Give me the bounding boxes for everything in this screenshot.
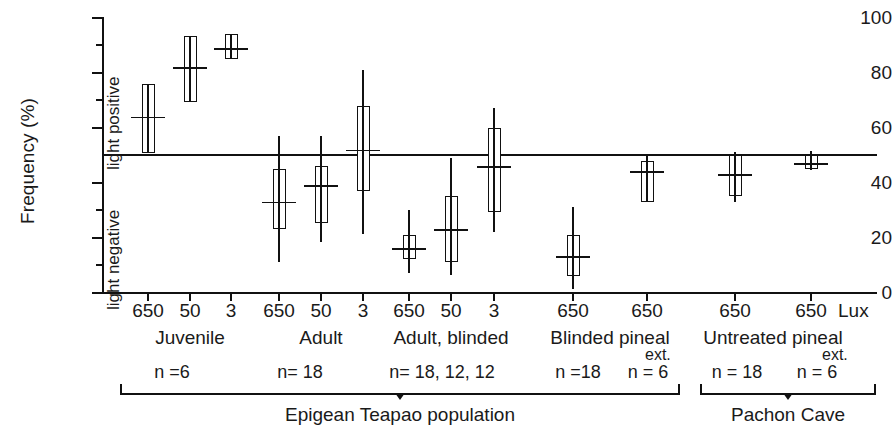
x-label-juvenile-50: 50 <box>179 300 200 322</box>
y-tick-80 <box>92 72 102 74</box>
y-tick-minor-70 <box>96 99 102 101</box>
median-line <box>794 163 828 165</box>
median-line <box>556 256 590 258</box>
y-tick-minor-30 <box>96 209 102 211</box>
note-light-positive: light positive <box>104 76 124 170</box>
n-label-blinded-pineal: n =18 <box>555 362 601 383</box>
y-tick-minor-10 <box>96 264 102 266</box>
box <box>488 128 501 213</box>
group-label-juvenile: Juvenile <box>155 327 225 349</box>
n-label-juvenile: n =6 <box>154 362 190 383</box>
box-plot-blinded-pineal-ext-650[interactable] <box>634 0 660 292</box>
x-axis-line <box>102 292 877 294</box>
median-line <box>477 166 511 168</box>
median-line <box>173 67 207 69</box>
box-plot-untreated-pineal-650[interactable] <box>722 0 748 292</box>
box-plot-blinded-pineal-650[interactable] <box>560 0 586 292</box>
box <box>315 166 328 224</box>
box-plot-adult-blinded-3[interactable] <box>481 0 507 292</box>
n-label-blinded-pineal-ext: n = 6 <box>628 362 669 383</box>
box-plot-adult-blinded-650[interactable] <box>396 0 422 292</box>
box <box>273 169 286 229</box>
x-label-blinded-pineal-650: 650 <box>557 300 589 322</box>
bracket-epigean <box>120 384 680 395</box>
median-line <box>262 202 296 204</box>
n-label-adult: n= 18 <box>277 362 323 383</box>
box <box>142 84 155 153</box>
median-line <box>346 150 380 152</box>
x-unit-lux: Lux <box>838 300 869 322</box>
median-line <box>131 117 165 119</box>
box-plot-adult-50[interactable] <box>308 0 334 292</box>
x-label-juvenile-3: 3 <box>226 300 237 322</box>
box <box>357 106 370 191</box>
x-label-adult-650: 650 <box>263 300 295 322</box>
bracket-nib <box>783 393 793 400</box>
box <box>403 235 416 260</box>
group-label-adult: Adult <box>299 327 342 349</box>
y-tick-0 <box>92 292 102 294</box>
box <box>567 235 580 276</box>
box <box>641 161 654 202</box>
group-label-adult-blinded: Adult, blinded <box>393 327 508 349</box>
y-axis-title: Frequency (%) <box>17 71 39 251</box>
y-tick-minor-90 <box>96 44 102 46</box>
x-label-adult-blinded-50: 50 <box>440 300 461 322</box>
box-plot-juvenile-650[interactable] <box>135 0 161 292</box>
y-tick-40 <box>92 182 102 184</box>
box <box>805 155 818 169</box>
box-plot-adult-650[interactable] <box>266 0 292 292</box>
median-line <box>304 185 338 187</box>
y-tick-20 <box>92 237 102 239</box>
bracket-pachon <box>700 384 876 395</box>
n-label-untreated-pineal: n = 18 <box>712 362 763 383</box>
n-label-untreated-pineal-ext: n = 6 <box>797 362 838 383</box>
x-label-untreated-pineal-650: 650 <box>719 300 751 322</box>
x-label-adult-3: 3 <box>358 300 369 322</box>
median-line <box>718 174 752 176</box>
box-plot-juvenile-3[interactable] <box>218 0 244 292</box>
box-plot-adult-blinded-50[interactable] <box>438 0 464 292</box>
median-line <box>392 248 426 250</box>
box-plot-adult-3[interactable] <box>350 0 376 292</box>
boxplot-figure: Frequency (%) 100 80 60 40 20 0 light po… <box>0 0 892 443</box>
y-tick-60 <box>92 127 102 129</box>
x-label-juvenile-650: 650 <box>132 300 164 322</box>
box-plot-untreated-pineal-ext-650[interactable] <box>798 0 824 292</box>
population-label-pachon: Pachon Cave <box>731 404 845 426</box>
n-label-adult-blinded: n= 18, 12, 12 <box>389 362 495 383</box>
note-light-negative: light negative <box>104 210 124 310</box>
x-label-adult-blinded-650: 650 <box>393 300 425 322</box>
median-line <box>630 171 664 173</box>
box-plot-juvenile-50[interactable] <box>177 0 203 292</box>
box <box>184 36 197 102</box>
x-label-adult-50: 50 <box>310 300 331 322</box>
median-line <box>214 48 248 50</box>
population-label-epigean: Epigean Teapao population <box>285 404 515 426</box>
x-label-adult-blinded-3: 3 <box>489 300 500 322</box>
bracket-nib <box>395 393 405 400</box>
x-label-blinded-pineal-ext-650: 650 <box>631 300 663 322</box>
box <box>225 34 238 59</box>
y-tick-100 <box>92 17 102 19</box>
median-line <box>434 229 468 231</box>
x-label-untreated-pineal-ext-650: 650 <box>795 300 827 322</box>
